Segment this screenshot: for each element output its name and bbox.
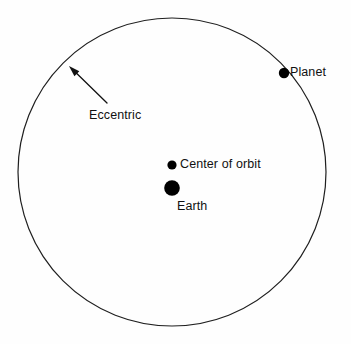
planet-dot	[279, 68, 289, 78]
eccentric-circle	[18, 18, 326, 326]
diagram-canvas: Planet Center of orbit Earth Eccentric	[0, 0, 351, 344]
earth-dot	[164, 180, 180, 196]
planet-label: Planet	[290, 66, 326, 79]
center-of-orbit-dot	[167, 160, 176, 169]
earth-label: Earth	[177, 200, 207, 213]
eccentric-arrow-line	[75, 72, 107, 103]
diagram-vector-layer	[0, 0, 351, 344]
center-of-orbit-label: Center of orbit	[180, 158, 261, 171]
eccentric-label: Eccentric	[89, 109, 141, 122]
